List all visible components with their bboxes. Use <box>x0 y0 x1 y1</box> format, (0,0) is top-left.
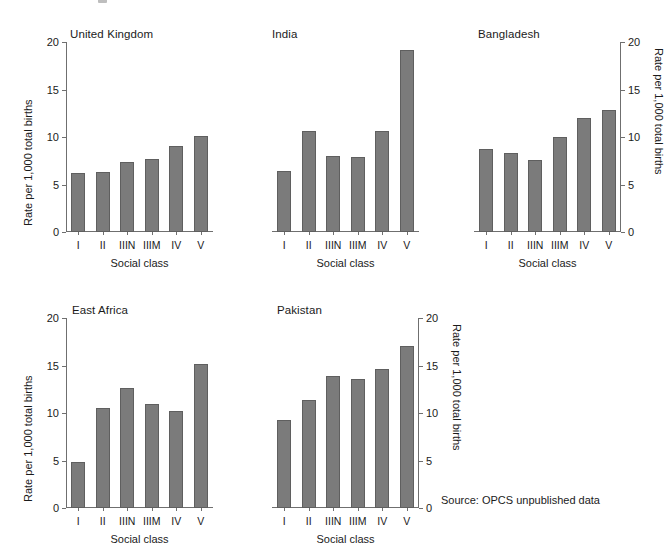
x-tick-pakistan-iv <box>382 508 383 511</box>
y-tick-pakistan-10 <box>419 413 423 414</box>
x-tick-pakistan-i <box>284 508 285 511</box>
x-tick-pakistan-iiin <box>333 508 334 511</box>
y-tick-label-pakistan-0: 0 <box>426 503 432 514</box>
panel-title-pakistan: Pakistan <box>277 304 322 316</box>
bar-pakistan-ii <box>302 400 316 508</box>
x-tick-label-pakistan-i: I <box>283 516 286 527</box>
x-tick-label-pakistan-iiim: IIIM <box>349 516 367 527</box>
x-tick-pakistan-ii <box>309 508 310 511</box>
bar-pakistan-iiim <box>351 379 365 508</box>
y-tick-pakistan-20 <box>419 318 423 319</box>
x-tick-label-pakistan-iv: IV <box>377 516 387 527</box>
x-tick-label-pakistan-iiin: IIIN <box>325 516 341 527</box>
y-tick-label-pakistan-20: 20 <box>426 313 438 324</box>
x-tick-label-pakistan-v: V <box>403 516 410 527</box>
source-note: Source: OPCS unpublished data <box>441 494 600 506</box>
y-tick-pakistan-0 <box>419 508 423 509</box>
y-tick-pakistan-15 <box>419 366 423 367</box>
x-axis-title-pakistan: Social class <box>316 533 374 545</box>
x-tick-pakistan-iiim <box>358 508 359 511</box>
bars-group-pakistan <box>272 318 419 508</box>
y-tick-label-pakistan-15: 15 <box>426 360 438 371</box>
y-tick-pakistan-5 <box>419 461 423 462</box>
bar-pakistan-i <box>277 420 291 508</box>
y-tick-label-pakistan-10: 10 <box>426 408 438 419</box>
bar-pakistan-v <box>400 346 414 508</box>
plot-area-pakistan: 05101520 <box>272 318 419 508</box>
bar-pakistan-iv <box>375 369 389 508</box>
y-tick-label-pakistan-5: 5 <box>426 455 432 466</box>
x-tick-label-pakistan-ii: II <box>306 516 312 527</box>
y-axis-title-pakistan: Rate per 1,000 total births <box>451 324 463 451</box>
x-tick-pakistan-v <box>407 508 408 511</box>
bar-pakistan-iiin <box>326 376 340 508</box>
